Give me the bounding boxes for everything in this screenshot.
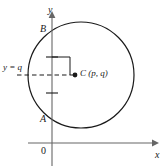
y-axis-label: y	[48, 5, 52, 15]
point-a-label: A	[40, 114, 46, 124]
center-point-dot	[73, 73, 78, 78]
figure-canvas	[0, 0, 166, 168]
right-angle-marker	[52, 57, 70, 75]
line-equation-label: y = q	[3, 63, 22, 72]
center-point-label: C (p, q)	[80, 69, 108, 78]
origin-label: 0	[41, 146, 46, 156]
geometry-figure: y x 0 B A y = q C (p, q)	[0, 0, 166, 168]
point-b-label: B	[40, 24, 46, 34]
x-axis-arrowhead	[152, 140, 159, 147]
x-axis-label: x	[155, 150, 159, 160]
